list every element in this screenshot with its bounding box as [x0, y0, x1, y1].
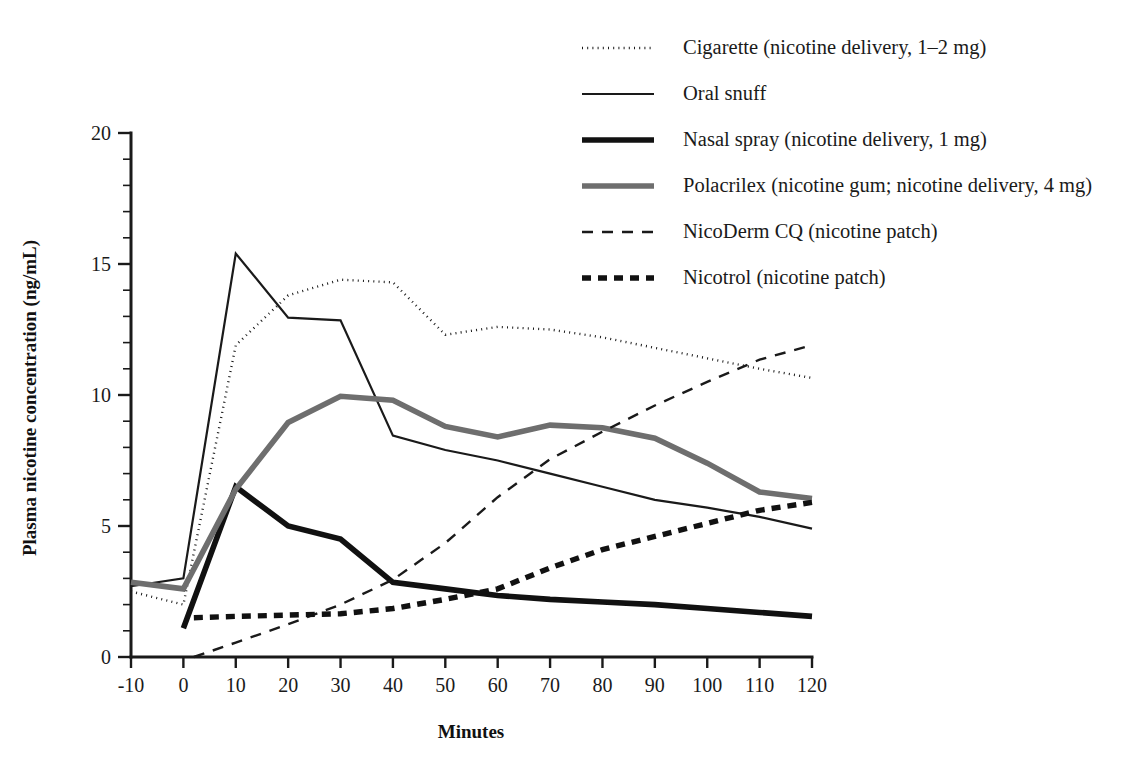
series-line-cigarette	[131, 280, 812, 605]
series-line-nicotrol	[194, 502, 812, 617]
series-line-polacrilex	[131, 396, 812, 589]
y-axis-ticks	[118, 133, 131, 657]
x-tick-label: 100	[692, 674, 722, 696]
legend-item-nicotrol: Nicotrol (nicotine patch)	[582, 266, 886, 289]
x-tick-label: 40	[383, 674, 403, 696]
legend-label-cigarette: Cigarette (nicotine delivery, 1–2 mg)	[683, 36, 986, 59]
legend-label-nicoderm-cq: NicoDerm CQ (nicotine patch)	[683, 220, 937, 243]
chart-figure: Cigarette (nicotine delivery, 1–2 mg)Ora…	[0, 0, 1134, 782]
x-tick-label: 20	[278, 674, 298, 696]
x-tick-label: 10	[226, 674, 246, 696]
y-tick-label: 5	[101, 515, 111, 537]
nicotine-concentration-line-chart: Cigarette (nicotine delivery, 1–2 mg)Ora…	[0, 0, 1134, 782]
x-tick-label: 80	[592, 674, 612, 696]
legend-item-polacrilex: Polacrilex (nicotine gum; nicotine deliv…	[582, 174, 1092, 197]
series-line-nasal-spray	[183, 487, 812, 628]
x-axis-title: Minutes	[438, 721, 505, 742]
x-tick-label: 30	[331, 674, 351, 696]
x-axis-tick-labels: -100102030405060708090100110120	[118, 674, 827, 696]
y-tick-label: 15	[91, 253, 111, 275]
x-tick-label: -10	[118, 674, 145, 696]
legend-item-oral-snuff: Oral snuff	[582, 82, 766, 104]
series-line-oral-snuff	[131, 254, 812, 587]
y-axis-title: Plasma nicotine concentration (ng/mL)	[19, 240, 41, 556]
y-tick-label: 0	[101, 646, 111, 668]
x-tick-label: 50	[435, 674, 455, 696]
chart-legend: Cigarette (nicotine delivery, 1–2 mg)Ora…	[582, 36, 1092, 289]
x-axis-ticks	[131, 657, 812, 668]
legend-label-nasal-spray: Nasal spray (nicotine delivery, 1 mg)	[683, 128, 987, 151]
y-axis-tick-labels: 05101520	[91, 122, 111, 668]
x-tick-label: 60	[488, 674, 508, 696]
legend-label-polacrilex: Polacrilex (nicotine gum; nicotine deliv…	[683, 174, 1092, 197]
x-tick-label: 120	[797, 674, 827, 696]
x-tick-label: 110	[745, 674, 774, 696]
x-tick-label: 70	[540, 674, 560, 696]
y-tick-label: 10	[91, 384, 111, 406]
legend-item-cigarette: Cigarette (nicotine delivery, 1–2 mg)	[582, 36, 986, 59]
y-tick-label: 20	[91, 122, 111, 144]
legend-item-nicoderm-cq: NicoDerm CQ (nicotine patch)	[582, 220, 937, 243]
legend-label-oral-snuff: Oral snuff	[683, 82, 766, 104]
legend-item-nasal-spray: Nasal spray (nicotine delivery, 1 mg)	[582, 128, 987, 151]
chart-series	[131, 254, 812, 657]
legend-label-nicotrol: Nicotrol (nicotine patch)	[683, 266, 886, 289]
x-tick-label: 90	[645, 674, 665, 696]
x-tick-label: 0	[178, 674, 188, 696]
